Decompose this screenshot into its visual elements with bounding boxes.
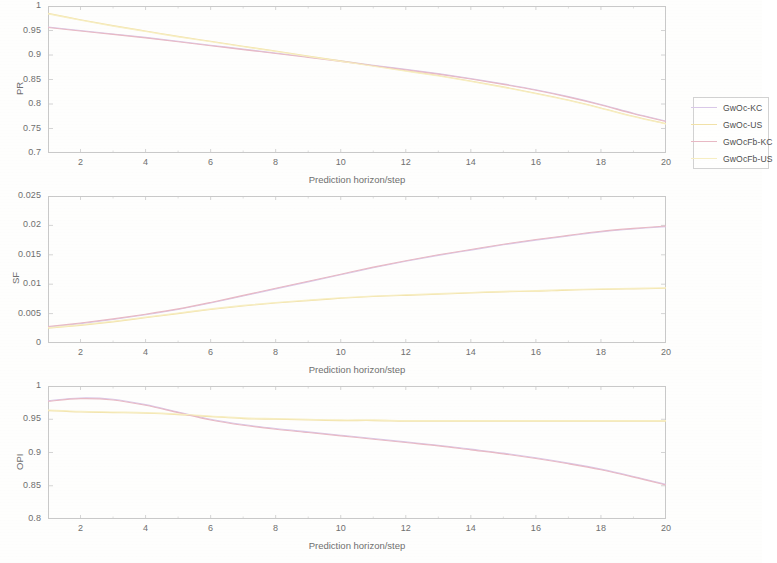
xtick-label-sf-2: 6 xyxy=(196,347,226,357)
xtick-label-pr-4: 10 xyxy=(326,157,356,167)
xtick-label-sf-3: 8 xyxy=(261,347,291,357)
ytick-label-opi-4: 1 xyxy=(0,380,41,390)
axis-label-x-pr: Prediction horizon/step xyxy=(257,174,457,185)
xtick-label-pr-3: 8 xyxy=(261,157,291,167)
ytick-label-pr-3: 0.85 xyxy=(0,74,41,84)
legend-label-gwoc-us: GwOc-US xyxy=(723,120,762,130)
axis-label-x-sf: Prediction horizon/step xyxy=(257,364,457,375)
ytick-label-pr-2: 0.8 xyxy=(0,98,41,108)
xtick-label-pr-8: 18 xyxy=(586,157,616,167)
xtick-label-opi-0: 2 xyxy=(66,523,96,533)
legend-label-gwoc-kc: GwOc-KC xyxy=(723,103,762,113)
subplot-pr xyxy=(48,6,666,153)
ytick-label-opi-1: 0.85 xyxy=(0,480,41,490)
subplot-sf xyxy=(48,196,666,343)
legend-label-gwocfb-us: GwOcFb-US xyxy=(723,154,773,164)
xtick-label-pr-5: 12 xyxy=(391,157,421,167)
xtick-label-opi-9: 20 xyxy=(651,523,681,533)
xtick-label-sf-4: 10 xyxy=(326,347,356,357)
xtick-label-opi-8: 18 xyxy=(586,523,616,533)
ytick-label-sf-3: 0.015 xyxy=(0,249,41,259)
subplot-opi xyxy=(48,386,666,519)
legend-line-swatch-gwoc-us xyxy=(691,124,717,125)
legend-item-1: GwOc-US xyxy=(691,116,777,133)
legend-line-swatch-gwocfb-kc xyxy=(691,141,717,142)
plot-area-sf xyxy=(48,196,666,343)
xtick-label-sf-5: 12 xyxy=(391,347,421,357)
ytick-label-sf-0: 0 xyxy=(0,337,41,347)
xtick-label-pr-2: 6 xyxy=(196,157,226,167)
xtick-label-sf-1: 4 xyxy=(131,347,161,357)
ytick-label-opi-2: 0.9 xyxy=(0,447,41,457)
xtick-label-opi-5: 12 xyxy=(391,523,421,533)
ytick-label-opi-3: 0.95 xyxy=(0,413,41,423)
xtick-label-opi-4: 10 xyxy=(326,523,356,533)
legend-item-3: GwOcFb-US xyxy=(691,150,777,167)
legend-item-0: GwOc-KC xyxy=(691,99,777,116)
ytick-label-pr-1: 0.75 xyxy=(0,123,41,133)
xtick-label-sf-0: 2 xyxy=(66,347,96,357)
ytick-label-pr-5: 0.95 xyxy=(0,25,41,35)
xtick-label-pr-9: 20 xyxy=(651,157,681,167)
xtick-label-opi-6: 14 xyxy=(456,523,486,533)
xtick-label-pr-0: 2 xyxy=(66,157,96,167)
xtick-label-opi-1: 4 xyxy=(131,523,161,533)
ytick-label-pr-0: 0.7 xyxy=(0,147,41,157)
xtick-label-sf-6: 14 xyxy=(456,347,486,357)
ytick-label-sf-2: 0.01 xyxy=(0,278,41,288)
xtick-label-opi-2: 6 xyxy=(196,523,226,533)
axis-label-y-pr: PR xyxy=(14,82,25,95)
ytick-label-sf-1: 0.005 xyxy=(0,308,41,318)
legend-line-swatch-gwoc-kc xyxy=(691,107,717,108)
ytick-label-opi-0: 0.8 xyxy=(0,513,41,523)
ytick-label-pr-4: 0.9 xyxy=(0,49,41,59)
ytick-label-pr-6: 1 xyxy=(0,0,41,10)
axis-label-x-opi: Prediction horizon/step xyxy=(257,540,457,551)
xtick-label-opi-3: 8 xyxy=(261,523,291,533)
ytick-label-sf-5: 0.025 xyxy=(0,190,41,200)
plot-area-opi xyxy=(48,386,666,519)
legend: GwOc-KC GwOc-US GwOcFb-KC GwOcFb-US xyxy=(693,97,769,169)
xtick-label-opi-7: 16 xyxy=(521,523,551,533)
plot-area-pr xyxy=(48,6,666,153)
legend-line-swatch-gwocfb-us xyxy=(691,158,717,159)
xtick-label-sf-9: 20 xyxy=(651,347,681,357)
xtick-label-pr-7: 16 xyxy=(521,157,551,167)
xtick-label-sf-7: 16 xyxy=(521,347,551,357)
xtick-label-pr-6: 14 xyxy=(456,157,486,167)
xtick-label-pr-1: 4 xyxy=(131,157,161,167)
xtick-label-sf-8: 18 xyxy=(586,347,616,357)
legend-label-gwocfb-kc: GwOcFb-KC xyxy=(723,137,773,147)
ytick-label-sf-4: 0.02 xyxy=(0,219,41,229)
legend-item-2: GwOcFb-KC xyxy=(691,133,777,150)
